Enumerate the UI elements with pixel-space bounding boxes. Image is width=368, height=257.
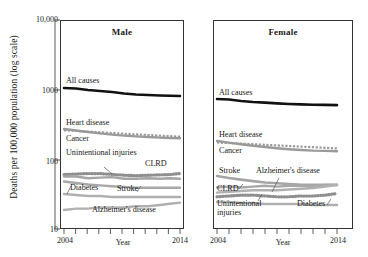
- label-female-unintentional-injuries-line2: injuries: [217, 208, 241, 217]
- series-male-diabetes: [64, 194, 180, 197]
- label-male-heart-disease: Heart disease: [66, 118, 109, 127]
- label-female-cancer: Cancer: [219, 146, 242, 155]
- label-male-alzheimers: Alzheimer's disease: [92, 205, 156, 214]
- label-male-diabetes: Diabetes: [70, 183, 98, 192]
- panel-female: Female: [213, 20, 353, 229]
- male-x-tick-end: 2014: [165, 236, 195, 245]
- label-female-stroke: Stroke: [219, 166, 240, 175]
- label-male-cancer: Cancer: [66, 134, 89, 143]
- label-female-unintentional-injuries-line1: Unintentional: [217, 199, 261, 208]
- label-male-unintentional-injuries: Unintentional injuries: [66, 148, 137, 157]
- female-x-axis-title: Year: [265, 238, 301, 247]
- series-male-all-causes: [64, 88, 180, 96]
- label-female-diabetes: Diabetes: [297, 199, 325, 208]
- label-female-clrd: CLRD: [217, 184, 239, 193]
- label-female-all-causes: All causes: [219, 88, 252, 97]
- male-x-ticks: [64, 229, 180, 234]
- y-axis-ticks: [55, 20, 60, 229]
- label-male-stroke: Stroke: [117, 184, 138, 193]
- panel-female-title: Female: [214, 27, 352, 37]
- label-female-heart-disease: Heart disease: [219, 130, 262, 139]
- label-male-all-causes: All causes: [66, 76, 99, 85]
- female-x-tick-end: 2014: [323, 236, 353, 245]
- label-male-clrd: CLRD: [145, 159, 167, 168]
- series-male-clrd: [64, 177, 180, 179]
- label-female-alzheimers: Alzheimer's disease: [256, 166, 320, 175]
- female-x-tick-start: 2004: [203, 236, 233, 245]
- male-x-tick-start: 2004: [50, 236, 80, 245]
- figure-container: Deaths per 100,000 population (log scale…: [0, 0, 368, 257]
- female-x-ticks: [217, 229, 337, 234]
- male-x-axis-title: Year: [105, 238, 141, 247]
- series-male-unintentional-injuries: [64, 174, 180, 176]
